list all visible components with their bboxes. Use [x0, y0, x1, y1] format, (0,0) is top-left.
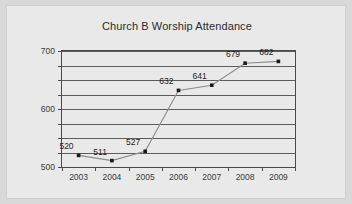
x-axis-tick-label: 2005 — [136, 172, 155, 182]
data-point-marker — [210, 83, 214, 87]
x-axis-tick-label: 2006 — [169, 172, 188, 182]
x-axis-tick-label: 2003 — [69, 172, 88, 182]
data-value-label: 641 — [193, 71, 207, 81]
data-value-labels-group: 520511527632641679682 — [59, 47, 273, 156]
data-value-label: 527 — [126, 137, 140, 147]
data-point-marker — [143, 150, 147, 154]
data-point-marker — [243, 61, 247, 65]
data-point-marker — [277, 60, 281, 64]
y-axis-tick-label: 500 — [41, 162, 55, 172]
x-axis-tick-label: 2009 — [269, 172, 288, 182]
x-axis-tick-label: 2004 — [102, 172, 121, 182]
chart-figure: Church B Worship Attendance 520511527632… — [6, 5, 346, 199]
data-value-label: 679 — [226, 49, 240, 59]
y-axis-tick-label: 700 — [41, 46, 55, 56]
x-axis-tick-label: 2007 — [202, 172, 221, 182]
y-axis-tick-labels: 500600700 — [41, 46, 55, 172]
data-value-label: 682 — [259, 47, 273, 57]
data-point-marker — [177, 89, 181, 93]
data-value-label: 520 — [59, 141, 73, 151]
series-markers-group — [77, 60, 280, 163]
line-chart-svg: 520511527632641679682 500600700 20032004… — [7, 6, 347, 200]
x-axis-tick-labels: 2003200420052006200720082009 — [69, 172, 288, 182]
data-point-marker — [77, 154, 81, 158]
data-value-label: 511 — [93, 147, 107, 157]
y-axis-tick-label: 600 — [41, 104, 55, 114]
plot-area: 520511527632641679682 500600700 20032004… — [7, 6, 347, 200]
data-point-marker — [110, 159, 114, 163]
series-line-attendance — [79, 61, 279, 160]
data-value-label: 632 — [159, 76, 173, 86]
x-axis-tick-label: 2008 — [236, 172, 255, 182]
